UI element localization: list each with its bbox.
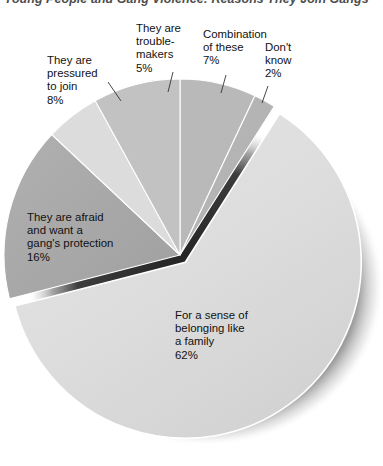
slice-label-dontknow: Don't know 2% (265, 41, 292, 81)
slice-label-combination: Combination of these 7% (203, 28, 267, 68)
slice-label-pressured: They are pressured to join 8% (47, 54, 98, 107)
slice-label-belonging: For a sense of belonging like a family 6… (175, 309, 248, 362)
slice-label-afraid: They are afraid and want a gang's protec… (27, 211, 113, 264)
slice-label-troublemakers: They are trouble- makers 5% (136, 22, 181, 75)
chart-canvas: Young People and Gang Violence: Reasons … (0, 0, 383, 466)
